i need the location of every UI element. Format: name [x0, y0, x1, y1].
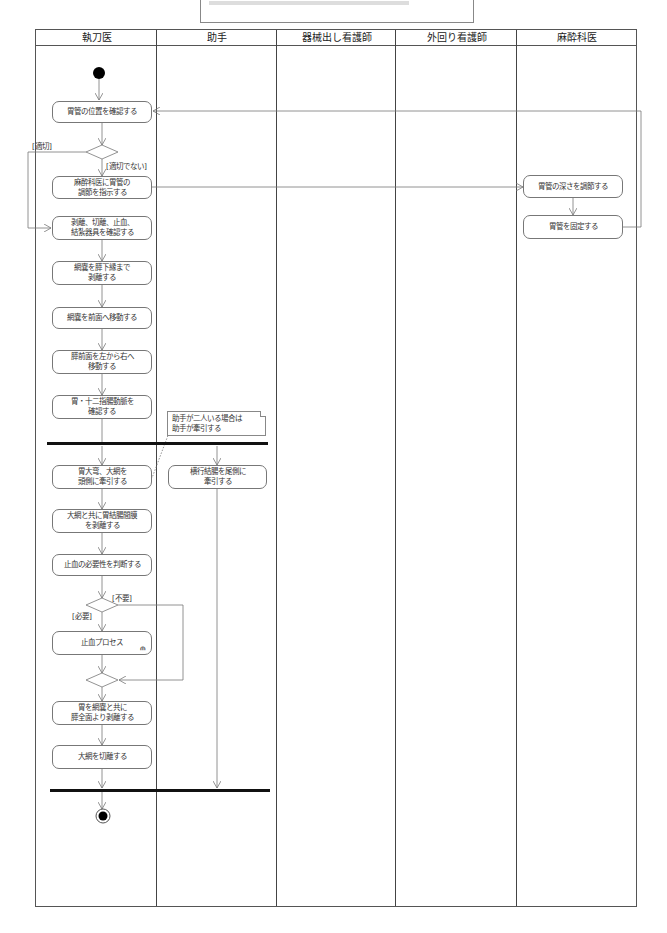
merge-diamond — [86, 673, 118, 687]
action-confirm-gastroduodenal-artery[interactable]: 胃・十二指腸動脈を 確認する — [52, 395, 152, 419]
join-bar — [50, 789, 270, 792]
action-fix-ng-tube[interactable]: 胃管を固定する — [523, 215, 623, 239]
action-retract-transverse-colon[interactable]: 横行結腸を尾側に 牽引する — [168, 465, 267, 489]
action-dissect-omental-bursa[interactable]: 網嚢を膵下縁まで 剥離する — [52, 261, 152, 285]
guard-appropriate: [適切] — [32, 140, 52, 151]
decision-diamond — [86, 145, 118, 159]
guard-not-appropriate: [適切でない] — [106, 160, 147, 171]
action-move-pancreas-front[interactable]: 膵前面を左から右へ 移動する — [52, 350, 152, 374]
action-dissect-stomach-from-pancreas[interactable]: 胃を網嚢と共に 膵全面より剥離する — [52, 701, 152, 725]
action-confirm-instruments[interactable]: 剥離、切離、止血、 結紮器具を確認する — [52, 216, 152, 240]
action-check-ng-tube-position[interactable]: 胃管の位置を確認する — [52, 101, 152, 123]
action-dissect-gastrocolic-ligament[interactable]: 大網と共に胃結腸間膜 を剥離する — [52, 509, 152, 533]
action-hemostasis-label: 止血プロセス — [81, 638, 123, 648]
guard-unnecessary: [不要] — [112, 592, 132, 603]
action-instruct-anesthesiologist[interactable]: 麻酔科医に胃管の 調節を指示する — [52, 176, 152, 199]
action-retract-greater-curvature[interactable]: 胃大弯、大網を 頭側に牽引する — [52, 465, 152, 489]
action-divide-omentum[interactable]: 大網を切離する — [52, 745, 152, 769]
action-hemostasis-process[interactable]: 止血プロセス — [52, 631, 152, 655]
guard-necessary: [必要] — [72, 610, 92, 621]
action-move-bursa-front[interactable]: 網嚢を前面へ移動する — [52, 307, 152, 329]
fork-bar — [47, 442, 268, 445]
rake-icon: ⫙ — [140, 643, 146, 653]
action-judge-hemostasis[interactable]: 止血の必要性を判断する — [52, 554, 152, 576]
initial-node — [93, 67, 105, 79]
comment-note: 助手が二人いる場合は 助手が牽引する — [167, 411, 266, 436]
action-adjust-ng-tube-depth[interactable]: 胃管の深さを調節する — [523, 175, 623, 198]
